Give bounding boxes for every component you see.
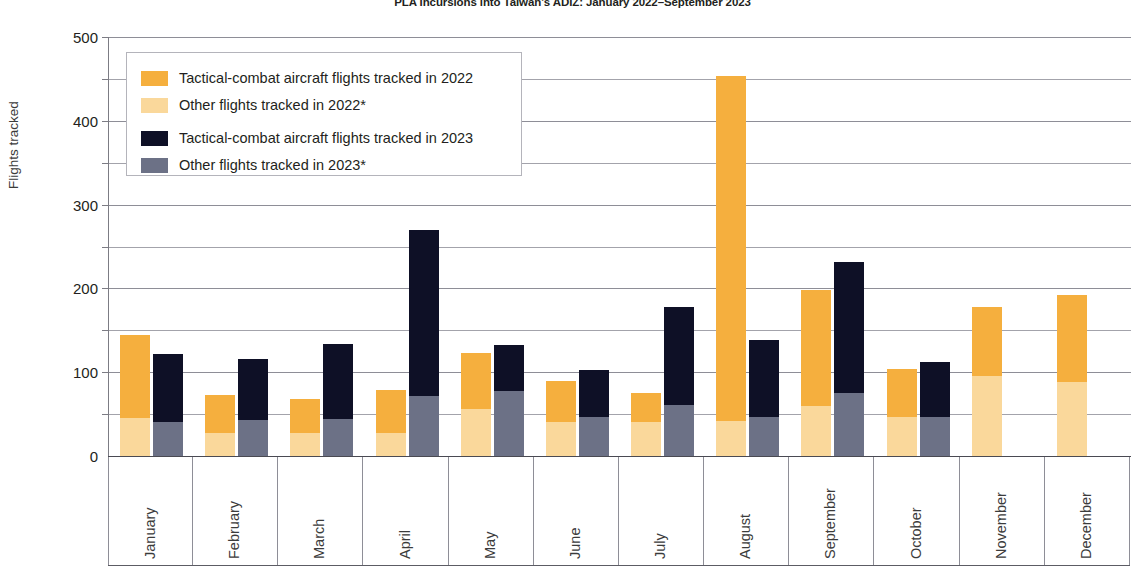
gridline-500 (109, 37, 1131, 38)
bar-segment-other-2023 (579, 417, 609, 456)
legend-item-t2023[interactable]: Tactical-combat aircraft flights tracked… (141, 125, 521, 151)
legend-item-o2023[interactable]: Other flights tracked in 2023* (141, 152, 521, 178)
y-tick-mark-200 (102, 288, 109, 289)
legend-swatch-icon-t2022 (141, 71, 168, 86)
x-axis-label-june: June (567, 528, 583, 559)
bar-segment-tactical-2022 (461, 353, 491, 409)
bar-segment-other-2022 (205, 433, 235, 456)
bar-segment-other-2023 (834, 393, 864, 456)
legend-swatch-icon-o2022 (141, 98, 168, 113)
x-axis-category-strip: JanuaryFebruaryMarchAprilMayJuneJulyAugu… (108, 457, 1130, 566)
bar-segment-tactical-2022 (972, 307, 1002, 376)
bar-segment-tactical-2023 (323, 344, 353, 419)
bar-october-2023 (920, 362, 950, 456)
legend-label: Other flights tracked in 2023* (179, 157, 366, 173)
bar-april-2022 (376, 390, 406, 456)
legend-swatch-icon-o2023 (141, 158, 168, 173)
x-axis-category-cell-december: December (1045, 457, 1130, 565)
y-tick-label-0: 0 (38, 448, 98, 465)
y-tick-label-500: 500 (38, 29, 98, 46)
y-tick-label-400: 400 (38, 112, 98, 129)
y-tick-mark-150 (102, 330, 109, 331)
bar-segment-other-2023 (238, 420, 268, 456)
bar-segment-tactical-2023 (664, 307, 694, 405)
legend-swatch-icon-t2023 (141, 131, 168, 146)
gridline-200 (109, 288, 1131, 289)
bar-segment-other-2022 (631, 422, 661, 456)
bar-segment-tactical-2022 (290, 399, 320, 433)
y-tick-mark-250 (102, 247, 109, 248)
bar-july-2022 (631, 393, 661, 456)
x-axis-category-cell-july: July (619, 457, 704, 565)
bar-segment-other-2022 (461, 409, 491, 456)
bar-september-2022 (801, 290, 831, 456)
bar-segment-other-2022 (1057, 382, 1087, 456)
bar-segment-tactical-2022 (205, 395, 235, 434)
bar-august-2023 (749, 340, 779, 456)
bar-july-2023 (664, 307, 694, 456)
bar-august-2022 (716, 76, 746, 456)
bar-april-2023 (409, 230, 439, 456)
y-tick-mark-50 (102, 414, 109, 415)
x-axis-label-september: September (822, 488, 838, 559)
y-axis-title: Flights tracked (6, 0, 21, 189)
bar-segment-other-2023 (153, 422, 183, 456)
y-tick-mark-450 (102, 79, 109, 80)
y-tick-label-300: 300 (38, 196, 98, 213)
bar-june-2022 (546, 381, 576, 456)
bar-segment-tactical-2023 (920, 362, 950, 416)
bar-segment-other-2023 (409, 396, 439, 456)
bar-segment-tactical-2022 (1057, 295, 1087, 382)
gridline-250 (109, 247, 1131, 248)
bar-segment-tactical-2023 (409, 230, 439, 396)
bar-segment-tactical-2022 (801, 290, 831, 406)
bar-february-2023 (238, 359, 268, 456)
legend-label: Tactical-combat aircraft flights tracked… (179, 130, 473, 146)
bar-segment-other-2023 (920, 417, 950, 456)
bar-segment-tactical-2022 (376, 390, 406, 433)
x-axis-category-cell-february: February (193, 457, 278, 565)
bar-segment-other-2022 (120, 418, 150, 456)
bar-segment-other-2022 (290, 433, 320, 456)
bar-segment-other-2023 (664, 405, 694, 456)
x-axis-label-april: April (397, 530, 413, 559)
x-axis-label-august: August (737, 514, 753, 559)
bar-segment-tactical-2022 (546, 381, 576, 422)
bar-october-2022 (887, 369, 917, 456)
x-axis-label-december: December (1078, 492, 1094, 559)
bar-segment-tactical-2023 (579, 370, 609, 417)
y-tick-mark-350 (102, 163, 109, 164)
y-tick-mark-400 (102, 121, 109, 122)
bar-segment-tactical-2023 (749, 340, 779, 416)
bar-segment-other-2022 (972, 376, 1002, 456)
bar-segment-tactical-2023 (153, 354, 183, 422)
bar-segment-tactical-2022 (631, 393, 661, 421)
x-axis-category-cell-april: April (364, 457, 449, 565)
bar-segment-tactical-2023 (834, 262, 864, 393)
bar-november-2022 (972, 307, 1002, 456)
x-axis-label-february: February (226, 501, 242, 559)
bar-segment-other-2023 (749, 417, 779, 456)
bar-segment-tactical-2022 (716, 76, 746, 421)
y-tick-label-100: 100 (38, 364, 98, 381)
x-axis-label-october: October (908, 507, 924, 559)
x-axis-category-cell-august: August (704, 457, 789, 565)
chart-page: PLA Incursions into Taiwan's ADIZ: Janua… (0, 0, 1145, 587)
legend-label: Tactical-combat aircraft flights tracked… (179, 70, 473, 86)
bar-march-2022 (290, 399, 320, 456)
bar-may-2022 (461, 353, 491, 456)
x-axis-label-november: November (993, 492, 1009, 559)
bar-segment-tactical-2022 (120, 335, 150, 419)
chart-title: PLA Incursions into Taiwan's ADIZ: Janua… (0, 0, 1145, 8)
bar-segment-tactical-2023 (238, 359, 268, 420)
y-tick-mark-500 (102, 37, 109, 38)
bar-may-2023 (494, 345, 524, 456)
legend-item-o2022[interactable]: Other flights tracked in 2022* (141, 92, 521, 118)
bar-march-2023 (323, 344, 353, 456)
x-axis-category-cell-september: September (789, 457, 874, 565)
bar-segment-other-2022 (546, 422, 576, 456)
legend-item-t2022[interactable]: Tactical-combat aircraft flights tracked… (141, 65, 521, 91)
bar-segment-other-2023 (323, 419, 353, 456)
bar-segment-other-2022 (716, 421, 746, 456)
x-axis-label-march: March (311, 519, 327, 559)
